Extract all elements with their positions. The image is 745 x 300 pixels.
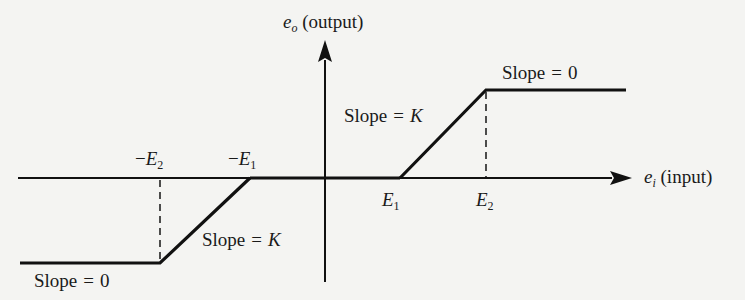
characteristic-lower-left [20,178,250,263]
slope-label-upper-ramp: Slope=K [344,106,423,125]
diagram-canvas: eo (output) ei (input) −E2 −E1 E1 E2 Slo… [0,0,745,300]
x-axis-arrowhead [610,171,632,185]
characteristic-upper-right [400,90,626,178]
y-axis-arrowhead [318,40,332,62]
label-pos-e1: E1 [382,190,400,212]
characteristic-plot [0,0,745,300]
label-pos-e2: E2 [476,190,494,212]
y-axis-subscript: o [291,21,297,35]
label-neg-e1: −E1 [228,149,256,171]
y-axis-text: (output) [302,11,363,32]
label-neg-e2: −E2 [135,149,163,171]
slope-label-upper-flat: Slope=0 [502,63,578,82]
x-axis-label: ei (input) [644,167,712,189]
x-axis-subscript: i [652,176,655,190]
y-axis-label: eo (output) [283,12,363,34]
x-axis-text: (input) [661,166,713,187]
slope-label-lower-flat: Slope=0 [34,271,110,290]
slope-label-lower-ramp: Slope=K [202,230,281,249]
